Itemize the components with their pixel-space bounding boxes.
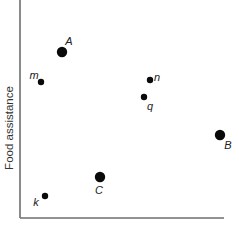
point-label: C xyxy=(95,184,103,196)
point-marker xyxy=(42,193,48,199)
point-label: A xyxy=(64,35,72,47)
point-label: k xyxy=(33,196,39,208)
axes xyxy=(20,0,224,218)
point-label: B xyxy=(224,139,231,151)
data-point-q: q xyxy=(141,94,154,112)
point-label: m xyxy=(29,69,38,81)
data-point-k: k xyxy=(33,193,48,208)
data-point-C: C xyxy=(95,172,105,196)
data-point-A: A xyxy=(57,35,73,57)
data-point-m: m xyxy=(29,69,44,85)
data-point-n: n xyxy=(147,71,160,83)
point-marker xyxy=(95,172,105,182)
data-points: AmnqBCk xyxy=(29,35,231,208)
point-marker xyxy=(57,47,67,57)
y-axis-label: Food assistance xyxy=(3,86,15,170)
data-point-B: B xyxy=(215,130,232,151)
point-marker xyxy=(147,77,153,83)
point-marker xyxy=(38,79,44,85)
point-label: q xyxy=(147,100,154,112)
scatter-chart: Food assistance AmnqBCk xyxy=(0,0,239,227)
point-label: n xyxy=(154,71,160,83)
